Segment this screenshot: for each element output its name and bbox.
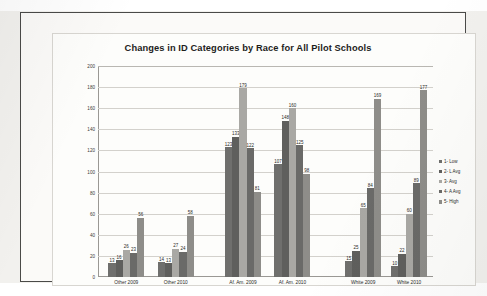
legend-label: 1- Low <box>444 159 458 164</box>
bar[interactable]: 24 <box>179 252 186 277</box>
bar-value-label: 65 <box>361 203 366 208</box>
x-label-spacer <box>98 280 107 292</box>
bar-groups: 1316262356141327245812313317912281107148… <box>98 66 433 277</box>
bar-slot: 13 <box>165 66 172 277</box>
bar[interactable]: 26 <box>123 250 130 277</box>
group-spacer <box>262 66 273 277</box>
bar-value-label: 169 <box>374 93 382 98</box>
bar-value-label: 177 <box>420 85 428 90</box>
x-axis-labels: Other 2009Other 2010Af. Am. 2009Af. Am. … <box>98 280 433 292</box>
bar-value-label: 89 <box>414 178 419 183</box>
bar[interactable]: 122 <box>247 148 254 277</box>
bar[interactable]: 13 <box>108 263 115 277</box>
bar[interactable]: 10 <box>391 266 398 277</box>
legend-item[interactable]: 3- Avg <box>439 179 479 184</box>
bar-slot: 14 <box>158 66 165 277</box>
bar-slot: 122 <box>247 66 254 277</box>
page-edge-top <box>0 0 487 11</box>
group-spacer <box>146 66 157 277</box>
legend-item[interactable]: 1- Low <box>439 159 479 164</box>
bar[interactable]: 125 <box>296 145 303 277</box>
chart-legend: 1- Low2- L Avg3- Avg4- A Avg5- High <box>439 159 479 209</box>
bar-slot: 98 <box>303 66 310 277</box>
group-spacer <box>98 66 107 277</box>
x-label-spacer <box>383 280 390 292</box>
legend-swatch-icon <box>439 180 442 183</box>
bar-group: 10226089177 <box>390 66 429 277</box>
bar[interactable]: 27 <box>172 249 179 277</box>
bar-value-label: 84 <box>368 183 373 188</box>
legend-item[interactable]: 4- A Avg <box>439 189 479 194</box>
group-spacer <box>312 66 344 277</box>
bar-slot: 13 <box>108 66 115 277</box>
bar-slot: 24 <box>179 66 186 277</box>
bar[interactable]: 58 <box>187 216 194 277</box>
bar[interactable]: 22 <box>398 254 405 277</box>
bar-value-label: 25 <box>353 245 358 250</box>
x-axis-label: White 2009 <box>344 280 383 292</box>
bar-group: 15256584169 <box>344 66 383 277</box>
bar-value-label: 27 <box>173 243 178 248</box>
bar-value-label: 13 <box>109 258 114 263</box>
bar[interactable]: 56 <box>137 218 144 277</box>
y-axis-tick-label: 80 <box>90 190 95 195</box>
y-axis-tick-label: 160 <box>87 106 95 111</box>
y-axis-tick-label: 120 <box>87 148 95 153</box>
legend-item[interactable]: 2- L Avg <box>439 169 479 174</box>
bar[interactable]: 123 <box>225 147 232 277</box>
bar[interactable]: 81 <box>254 192 261 277</box>
group-spacer <box>429 66 433 277</box>
bar[interactable]: 23 <box>130 253 137 277</box>
bar-slot: 16 <box>116 66 123 277</box>
bar[interactable]: 13 <box>165 263 172 277</box>
legend-swatch-icon <box>439 170 442 173</box>
bar[interactable]: 107 <box>274 164 281 277</box>
bar[interactable]: 179 <box>239 88 246 277</box>
bar-value-label: 98 <box>304 168 309 173</box>
bar-value-label: 10 <box>392 261 397 266</box>
y-axis-tick-label: 100 <box>87 169 95 174</box>
bar-slot: 177 <box>420 66 427 277</box>
bar[interactable]: 177 <box>420 90 427 277</box>
bar-slot: 65 <box>360 66 367 277</box>
bar[interactable]: 16 <box>116 260 123 277</box>
bar-value-label: 16 <box>117 255 122 260</box>
legend-label: 5- High <box>444 199 459 204</box>
bar[interactable]: 169 <box>374 99 381 277</box>
legend-swatch-icon <box>439 200 442 203</box>
bar[interactable]: 84 <box>367 188 374 277</box>
legend-item[interactable]: 5- High <box>439 199 479 204</box>
bar[interactable]: 98 <box>303 174 310 277</box>
y-axis-tick-label: 20 <box>90 253 95 258</box>
bar[interactable]: 148 <box>282 121 289 277</box>
bar[interactable]: 25 <box>352 251 359 277</box>
bar-slot: 26 <box>123 66 130 277</box>
x-axis-label: Af. Am. 2010 <box>273 280 312 292</box>
y-axis-tick-label: 0 <box>92 275 95 280</box>
legend-label: 3- Avg <box>444 179 457 184</box>
bar[interactable]: 14 <box>158 262 165 277</box>
group-spacer <box>383 66 390 277</box>
figure-border: Changes in ID Categories by Race for All… <box>20 12 466 282</box>
bar-group: 1413272458 <box>156 66 195 277</box>
bar-slot: 107 <box>274 66 281 277</box>
bar-value-label: 58 <box>188 210 193 215</box>
bar[interactable]: 89 <box>413 183 420 277</box>
group-spacer <box>195 66 223 277</box>
bar[interactable]: 65 <box>360 208 367 277</box>
bar[interactable]: 133 <box>232 137 239 277</box>
bar-slot: 10 <box>391 66 398 277</box>
bar-slot: 133 <box>232 66 239 277</box>
bar-group: 10714816012598 <box>273 66 312 277</box>
bar[interactable]: 160 <box>289 108 296 277</box>
plot-area: 020406080100120140160180200 131626235614… <box>98 66 433 277</box>
bar[interactable]: 15 <box>345 261 352 277</box>
bar-slot: 89 <box>413 66 420 277</box>
chart-title: Changes in ID Categories by Race for All… <box>53 43 443 53</box>
bar-slot: 179 <box>239 66 246 277</box>
bar[interactable]: 60 <box>406 214 413 277</box>
bar-slot: 58 <box>187 66 194 277</box>
x-label-spacer <box>429 280 433 292</box>
x-axis-label: Other 2010 <box>156 280 195 292</box>
bar-slot: 81 <box>254 66 261 277</box>
